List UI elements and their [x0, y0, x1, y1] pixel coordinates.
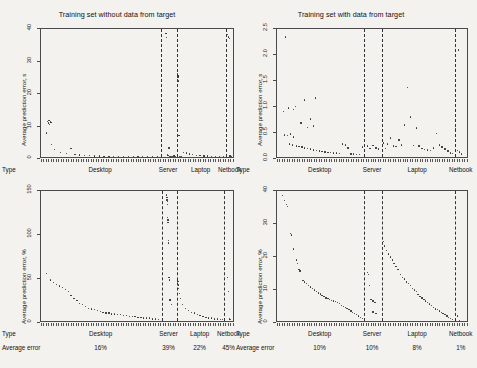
x-tick-mark — [462, 323, 463, 326]
x-tick-mark — [326, 323, 327, 326]
data-point — [333, 152, 334, 153]
x-tick-mark — [41, 159, 42, 162]
group-divider — [226, 29, 227, 157]
data-point — [301, 146, 302, 147]
x-tick-mark — [292, 159, 293, 162]
x-tick-mark — [277, 323, 278, 326]
data-point — [214, 318, 215, 319]
data-point — [433, 307, 434, 308]
data-point — [180, 298, 181, 299]
x-tick-mark — [412, 159, 413, 162]
x-tick-mark — [46, 323, 47, 326]
data-point — [220, 319, 221, 320]
plot-area — [276, 190, 468, 322]
data-point — [336, 152, 337, 153]
x-tick-mark — [116, 323, 117, 326]
y-tick-mark — [273, 132, 276, 133]
data-point — [158, 319, 159, 320]
data-point — [188, 310, 189, 311]
x-tick-mark — [395, 159, 396, 162]
x-tick-mark — [86, 159, 87, 162]
data-point — [189, 153, 190, 154]
data-point — [215, 156, 216, 157]
x-tick-mark — [358, 323, 359, 326]
data-point — [60, 152, 61, 153]
x-tick-mark — [351, 323, 352, 326]
data-point — [430, 150, 431, 151]
x-tick-mark — [385, 159, 386, 162]
data-point — [285, 36, 286, 37]
x-tick-mark — [361, 323, 362, 326]
data-point — [114, 313, 115, 314]
average-error-row-label: Average error — [2, 344, 40, 351]
x-tick-mark — [420, 159, 421, 162]
data-point — [175, 156, 176, 157]
data-point — [178, 80, 179, 81]
x-tick-mark — [462, 159, 463, 162]
x-tick-mark — [155, 159, 156, 162]
y-tick-mark — [37, 278, 40, 279]
x-tick-mark — [366, 323, 367, 326]
x-tick-mark — [210, 159, 211, 162]
data-point — [79, 154, 80, 155]
x-tick-mark — [93, 159, 94, 162]
y-tick-label: 2.0 — [262, 46, 268, 60]
x-tick-mark — [78, 159, 79, 162]
category-label-laptop: Laptop — [399, 166, 435, 173]
x-tick-mark — [68, 323, 69, 326]
data-point — [286, 204, 287, 205]
x-tick-mark — [329, 323, 330, 326]
data-point — [228, 291, 229, 292]
x-tick-mark — [422, 323, 423, 326]
data-point — [335, 301, 336, 302]
data-point — [459, 151, 460, 152]
data-point — [165, 33, 166, 34]
average-error-laptop: 8% — [399, 344, 435, 351]
y-tick-mark — [37, 61, 40, 62]
data-point — [378, 148, 379, 149]
data-point — [167, 222, 168, 223]
x-tick-mark — [454, 323, 455, 326]
data-point — [166, 197, 167, 198]
x-tick-mark — [83, 159, 84, 162]
group-divider — [455, 191, 456, 321]
x-tick-mark — [200, 159, 201, 162]
data-point — [444, 148, 445, 149]
data-point — [372, 311, 373, 312]
category-label-server: Server — [354, 330, 390, 337]
x-tick-mark — [319, 323, 320, 326]
x-tick-mark — [282, 323, 283, 326]
y-tick-mark — [37, 190, 40, 191]
data-point — [152, 318, 153, 319]
data-point — [111, 313, 112, 314]
data-point — [307, 148, 308, 149]
x-tick-mark — [220, 159, 221, 162]
data-point — [185, 308, 186, 309]
category-label-desktop: Desktop — [82, 166, 118, 173]
data-point — [324, 151, 325, 152]
x-tick-mark — [363, 323, 364, 326]
x-tick-mark — [215, 159, 216, 162]
data-point — [400, 274, 401, 275]
x-tick-mark — [378, 323, 379, 326]
data-point — [375, 313, 376, 314]
average-error-row-label: Average error — [236, 344, 274, 351]
data-point — [413, 145, 414, 146]
x-tick-mark — [442, 323, 443, 326]
x-tick-mark — [425, 159, 426, 162]
x-tick-mark — [143, 323, 144, 326]
data-point — [385, 148, 386, 149]
group-divider — [177, 191, 178, 321]
x-tick-mark — [198, 159, 199, 162]
x-tick-mark — [385, 323, 386, 326]
x-tick-mark — [336, 159, 337, 162]
x-tick-mark — [200, 323, 201, 326]
x-tick-mark — [93, 323, 94, 326]
x-tick-mark — [225, 323, 226, 326]
y-tick-label: 40 — [26, 20, 32, 34]
data-point — [76, 300, 77, 301]
x-tick-mark — [103, 159, 104, 162]
data-point — [287, 135, 288, 136]
data-point — [383, 241, 384, 242]
x-tick-mark — [63, 323, 64, 326]
